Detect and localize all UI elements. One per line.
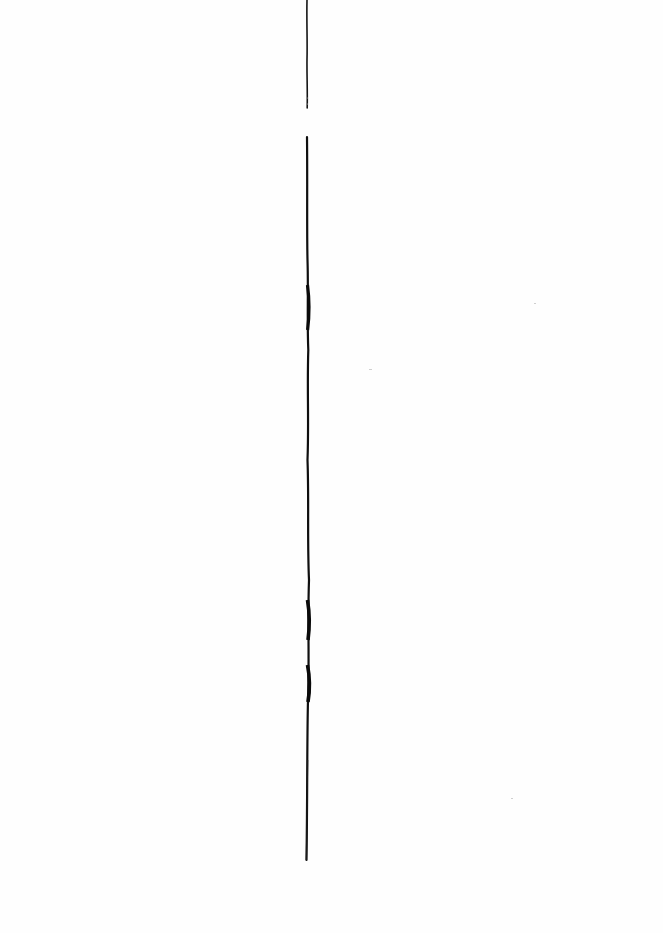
ink-dot <box>307 97 308 98</box>
ink-dot <box>307 103 308 104</box>
scan-speck <box>369 369 372 370</box>
scan-speck <box>511 798 513 799</box>
ink-blob <box>308 665 310 702</box>
scan-speck <box>534 303 536 304</box>
vertical-ink-line <box>0 0 663 933</box>
scanned-page <box>0 0 663 933</box>
line-segment-main <box>307 137 310 860</box>
ink-blob <box>308 285 310 330</box>
ink-blob <box>308 600 310 640</box>
